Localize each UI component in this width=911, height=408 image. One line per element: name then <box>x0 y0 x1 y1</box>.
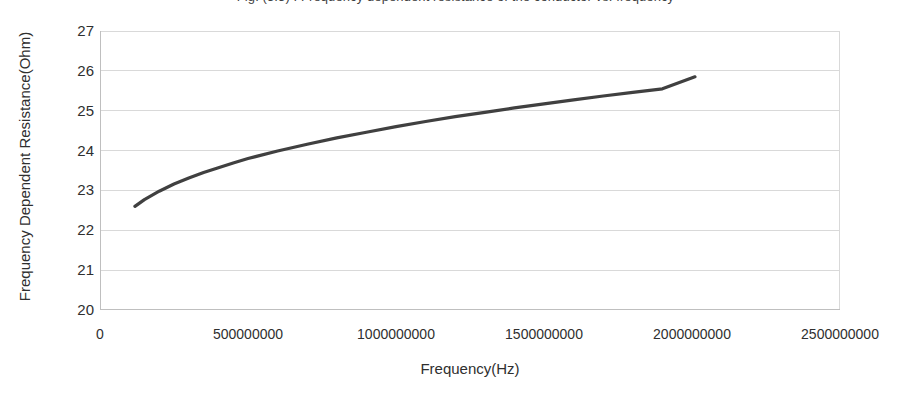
x-tick-label: 2000000000 <box>653 327 731 341</box>
x-tick-label: 500000000 <box>213 327 283 341</box>
y-tick-label: 27 <box>60 23 94 38</box>
y-tick-label: 23 <box>60 182 94 197</box>
y-tick-label: 22 <box>60 222 94 237</box>
plot-area <box>100 31 840 310</box>
y-tick-label: 21 <box>60 262 94 277</box>
x-tick-label: 1000000000 <box>357 327 435 341</box>
plot-svg <box>100 31 840 310</box>
y-tick-label: 26 <box>60 63 94 78</box>
y-tick-label: 25 <box>60 103 94 118</box>
chart-container: Fig. (3.3) : Frequency dependent resista… <box>0 0 911 408</box>
x-tick-label: 1500000000 <box>505 327 583 341</box>
y-tick-label: 24 <box>60 143 94 158</box>
x-tick-label: 0 <box>96 327 104 341</box>
chart-title: Fig. (3.3) : Frequency dependent resista… <box>0 0 911 4</box>
x-axis-tick-labels: 0500000000100000000015000000002000000000… <box>0 327 911 349</box>
x-tick-label: 2500000000 <box>801 327 879 341</box>
y-axis-title: Frequency Dependent Resistance(Ohm) <box>16 7 33 327</box>
y-tick-label: 20 <box>60 302 94 317</box>
x-axis-title: Frequency(Hz) <box>100 360 840 377</box>
